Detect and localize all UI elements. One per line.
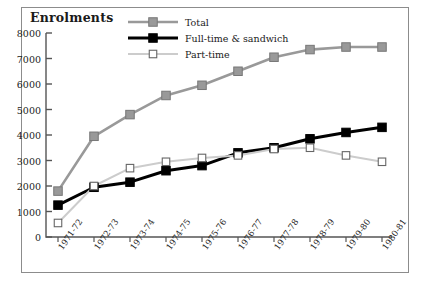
y-tick-label: 4000 bbox=[0, 130, 41, 141]
legend-item-label: Part-time bbox=[185, 49, 230, 60]
y-tick-label: 3000 bbox=[0, 155, 41, 166]
y-tick-label: 8000 bbox=[0, 28, 41, 39]
y-tick-label: 5000 bbox=[0, 104, 41, 115]
legend-item-label: Full-time & sandwich bbox=[185, 33, 288, 44]
enrolments-figure: Enrolments 80007000600050004000300020001… bbox=[0, 0, 421, 290]
legend-item-label: Total bbox=[185, 17, 209, 28]
y-tick-label: 6000 bbox=[0, 79, 41, 90]
series-lines bbox=[54, 43, 387, 227]
legend-swatches bbox=[128, 18, 178, 58]
y-tick-label: 2000 bbox=[0, 181, 41, 192]
y-tick-label: 1000 bbox=[0, 206, 41, 217]
y-tick-label: 0 bbox=[0, 232, 41, 243]
y-tick-label: 7000 bbox=[0, 53, 41, 64]
